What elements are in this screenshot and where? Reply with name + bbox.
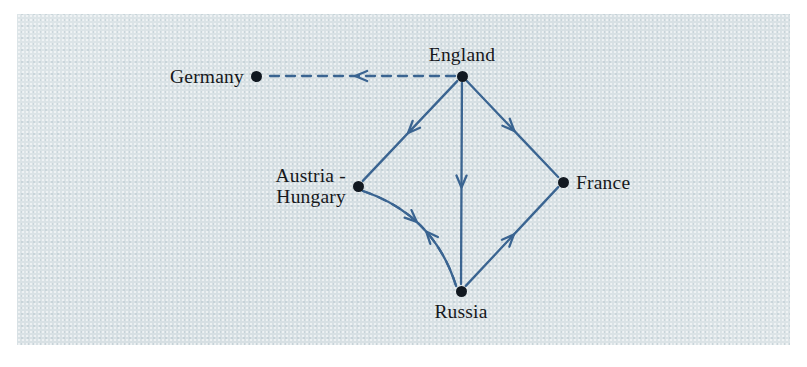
node-dot-germany[interactable] xyxy=(251,71,262,82)
node-dot-france[interactable] xyxy=(558,177,569,188)
node-label-russia: Russia xyxy=(434,301,487,322)
node-label-germany: Germany xyxy=(170,66,244,87)
figure-root: GermanyEnglandAustria - HungaryFranceRus… xyxy=(0,0,807,367)
graph-edges-layer xyxy=(0,0,807,367)
node-label-england: England xyxy=(429,44,495,65)
edge-austria-russia xyxy=(363,191,456,286)
node-dot-russia[interactable] xyxy=(456,286,467,297)
node-dot-england[interactable] xyxy=(457,71,468,82)
node-dot-austria[interactable] xyxy=(353,181,364,192)
node-label-austria: Austria - Hungary xyxy=(275,165,346,207)
edge-russia-austria xyxy=(363,191,456,286)
edge-england-russia xyxy=(461,83,462,284)
node-label-france: France xyxy=(576,172,630,193)
